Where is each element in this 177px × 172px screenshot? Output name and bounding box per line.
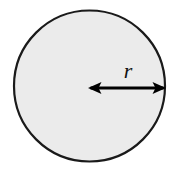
circle-radius-figure: r — [0, 0, 177, 172]
radius-label: r — [124, 58, 133, 83]
circle-shape — [14, 11, 165, 162]
circle-radius-svg: r — [0, 0, 177, 172]
